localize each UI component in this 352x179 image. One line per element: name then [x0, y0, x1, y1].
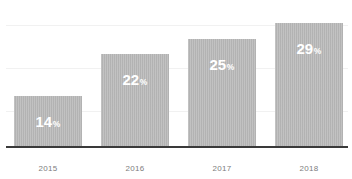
bar-label-2018: 29% — [275, 41, 343, 59]
bar-label-2015: 14% — [14, 114, 82, 132]
bar-value-number-2017: 25 — [210, 56, 226, 73]
bar-value-number-2018: 29 — [297, 40, 313, 57]
x-tick-label-2018: 2018 — [275, 163, 343, 174]
percent-symbol-2016: % — [140, 77, 148, 87]
x-tick-label-2017: 2017 — [188, 163, 256, 174]
percent-symbol-2018: % — [314, 46, 322, 56]
bar-2016[interactable] — [101, 54, 169, 147]
bar-value-number-2016: 22 — [123, 71, 139, 88]
bar-group-2016[interactable]: 22% — [101, 54, 169, 147]
bar-chart-figure: 14% 22% 25% 29% 2015 2016 2017 2018 — [0, 0, 352, 179]
x-axis-line — [6, 146, 348, 148]
bar-value-number-2015: 14 — [36, 113, 52, 130]
bar-group-2017[interactable]: 25% — [188, 39, 256, 147]
x-axis-labels: 2015 2016 2017 2018 — [0, 163, 352, 177]
x-tick-label-2015: 2015 — [14, 163, 82, 174]
bar-label-2017: 25% — [188, 57, 256, 75]
bars-layer: 14% 22% 25% 29% — [0, 0, 352, 147]
x-tick-label-2016: 2016 — [101, 163, 169, 174]
percent-symbol-2015: % — [53, 119, 61, 129]
bar-group-2015[interactable]: 14% — [14, 96, 82, 147]
percent-symbol-2017: % — [227, 62, 235, 72]
bar-label-2016: 22% — [101, 72, 169, 90]
bar-group-2018[interactable]: 29% — [275, 23, 343, 147]
